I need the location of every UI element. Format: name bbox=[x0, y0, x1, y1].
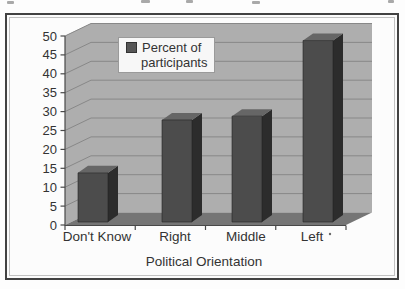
y-tick-label-10: 10 bbox=[43, 180, 57, 195]
bar-side-left bbox=[333, 34, 343, 222]
bar-side-middle bbox=[262, 109, 272, 222]
y-tick-label-45: 45 bbox=[43, 47, 57, 62]
category-label-right: Right bbox=[159, 229, 191, 244]
bar-side-right bbox=[192, 113, 202, 222]
y-tick-label-0: 0 bbox=[50, 218, 57, 233]
y-tick-label-35: 35 bbox=[43, 85, 57, 100]
bar-middle bbox=[232, 116, 262, 222]
legend-label-line2: participants bbox=[141, 55, 207, 70]
scan-artifact-dot bbox=[329, 233, 331, 235]
scanned-figure: 05101520253035404550Don't KnowRightMiddl… bbox=[0, 0, 405, 289]
bar-don-t-know bbox=[78, 173, 108, 222]
category-label-left: Left bbox=[301, 229, 324, 244]
legend-swatch-icon bbox=[126, 42, 137, 53]
x-axis-title: Political Orientation bbox=[146, 254, 262, 269]
y-tick-label-30: 30 bbox=[43, 104, 57, 119]
legend-label-line1: Percent of bbox=[142, 40, 201, 55]
y-tick-label-15: 15 bbox=[43, 161, 57, 176]
legend: Percent of participants bbox=[118, 37, 215, 73]
bar-side-don-t-know bbox=[108, 166, 118, 222]
y-tick-label-50: 50 bbox=[43, 29, 57, 44]
y-tick-label-40: 40 bbox=[43, 66, 57, 81]
y-tick-label-5: 5 bbox=[50, 199, 57, 214]
category-label-don-t-know: Don't Know bbox=[63, 229, 132, 244]
y-tick-label-20: 20 bbox=[43, 142, 57, 157]
category-label-middle: Middle bbox=[226, 229, 266, 244]
bar-left bbox=[303, 41, 333, 222]
bar-right bbox=[162, 120, 192, 222]
y-tick-label-25: 25 bbox=[43, 123, 57, 138]
